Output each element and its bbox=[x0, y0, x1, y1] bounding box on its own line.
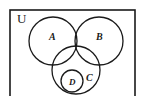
set-a-label: A bbox=[48, 31, 56, 42]
universal-set-label: U bbox=[17, 11, 27, 26]
set-b-label: B bbox=[95, 31, 103, 42]
set-c-label: C bbox=[86, 72, 93, 83]
venn-diagram-figure: U A B C D bbox=[0, 0, 143, 96]
set-d-label: D bbox=[68, 77, 76, 87]
venn-diagram-canvas: U A B C D bbox=[0, 0, 143, 96]
